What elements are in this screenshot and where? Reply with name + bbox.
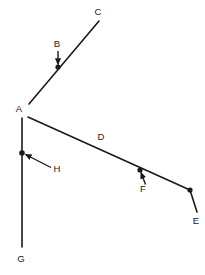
leader-arrows-group <box>26 51 146 185</box>
diagram-canvas: A B C D E F G H <box>0 0 205 275</box>
vertex-labels-group: A B C D E F G H <box>16 6 199 264</box>
label-c: C <box>95 6 102 17</box>
segment-a-c <box>29 21 99 104</box>
point-marker-f <box>137 167 142 172</box>
point-marker-b <box>55 64 60 69</box>
label-g: G <box>17 253 24 264</box>
segments-group <box>22 21 197 247</box>
label-f: F <box>140 183 146 194</box>
segment-bend-e <box>190 190 197 212</box>
point-marker-e-bend <box>187 187 192 192</box>
leader-arrow-h <box>26 155 52 168</box>
label-a: A <box>16 103 23 114</box>
segment-a-e <box>28 117 190 190</box>
label-e: E <box>193 215 199 226</box>
geometry-diagram: A B C D E F G H <box>0 0 205 275</box>
label-b: B <box>54 38 60 49</box>
point-marker-h <box>19 150 25 156</box>
label-d: D <box>98 131 105 142</box>
label-h: H <box>54 163 61 174</box>
